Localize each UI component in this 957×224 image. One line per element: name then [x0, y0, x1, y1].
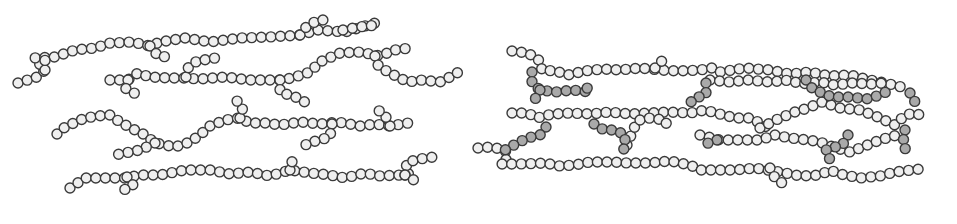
- monomer-bead: [105, 75, 115, 85]
- monomer-bead: [669, 157, 679, 167]
- branch-monomer-bead: [657, 56, 667, 66]
- crosslinked-polymer-panel: [473, 46, 924, 188]
- branch-monomer-bead: [181, 72, 191, 82]
- monomer-bead: [237, 33, 247, 43]
- monomer-bead: [285, 31, 295, 41]
- monomer-bead: [791, 77, 801, 87]
- monomer-bead: [317, 119, 327, 129]
- monomer-bead: [227, 73, 237, 83]
- monomer-bead: [602, 157, 612, 167]
- monomer-bead: [199, 36, 209, 46]
- branch-monomer-bead: [275, 75, 285, 85]
- crosslink-bead: [571, 85, 581, 95]
- monomer-bead: [271, 169, 281, 179]
- monomer-bead: [761, 133, 771, 143]
- crosslink-bead: [824, 91, 834, 101]
- monomer-bead: [592, 108, 602, 118]
- branch-monomer-bead: [159, 52, 169, 62]
- crosslink-bead: [880, 87, 890, 97]
- monomer-bead: [375, 171, 385, 181]
- monomer-bead: [124, 37, 134, 47]
- monomer-bead: [913, 164, 923, 174]
- monomer-bead: [256, 32, 266, 42]
- monomer-bead: [344, 48, 354, 58]
- monomer-bead: [687, 108, 697, 118]
- monomer-bead: [365, 169, 375, 179]
- monomer-bead: [620, 109, 630, 119]
- monomer-bead: [706, 107, 716, 117]
- monomer-bead: [337, 172, 347, 182]
- crosslink-bead: [825, 154, 835, 164]
- monomer-bead: [573, 68, 583, 78]
- branch-monomer-bead: [347, 23, 357, 33]
- monomer-bead: [725, 65, 735, 75]
- monomer-bead: [384, 171, 394, 181]
- monomer-bead: [835, 103, 845, 113]
- monomer-bead: [640, 64, 650, 74]
- linear-branched-polymer-panel: [13, 15, 462, 194]
- monomer-bead: [554, 161, 564, 171]
- crosslink-bead: [910, 96, 920, 106]
- monomer-bead: [266, 32, 276, 42]
- crosslink-bead: [899, 135, 909, 145]
- monomer-bead: [167, 168, 177, 178]
- monomer-bead: [13, 78, 23, 88]
- monomer-bead: [246, 75, 256, 85]
- monomer-bead: [346, 119, 356, 129]
- monomer-bead: [744, 164, 754, 174]
- polymer-diagram: [0, 0, 957, 224]
- monomer-bead: [779, 132, 789, 142]
- monomer-bead: [253, 169, 263, 179]
- monomer-bead: [545, 66, 555, 76]
- monomer-bead: [801, 171, 811, 181]
- branch-monomer-bead: [318, 15, 328, 25]
- monomer-bead: [86, 112, 96, 122]
- monomer-bead: [895, 82, 905, 92]
- monomer-bead: [289, 118, 299, 128]
- monomer-bead: [507, 159, 517, 169]
- monomer-bead: [161, 36, 171, 46]
- monomer-bead: [196, 165, 206, 175]
- monomer-bead: [507, 108, 517, 118]
- monomer-bead: [139, 170, 149, 180]
- crosslink-bead: [900, 125, 910, 135]
- monomer-bead: [697, 106, 707, 116]
- monomer-bead: [572, 108, 582, 118]
- monomer-bead: [148, 170, 158, 180]
- monomer-bead: [574, 159, 584, 169]
- crosslink-bead: [535, 130, 545, 140]
- monomer-bead: [234, 168, 244, 178]
- monomer-bead: [247, 33, 257, 43]
- crosslink-bead: [853, 93, 863, 103]
- monomer-bead: [68, 46, 78, 56]
- monomer-bead: [631, 158, 641, 168]
- monomer-bead: [95, 111, 105, 121]
- monomer-bead: [669, 66, 679, 76]
- monomer-bead: [132, 69, 142, 79]
- monomer-bead: [668, 107, 678, 117]
- branch-monomer-bead: [408, 175, 418, 185]
- monomer-bead: [473, 143, 483, 153]
- monomer-bead: [483, 142, 493, 152]
- monomer-bead: [905, 109, 915, 119]
- monomer-bead: [555, 67, 565, 77]
- monomer-bead: [564, 160, 574, 170]
- monomer-bead: [772, 76, 782, 86]
- monomer-bead: [808, 136, 818, 146]
- monomer-bead: [782, 168, 792, 178]
- monomer-bead: [215, 167, 225, 177]
- monomer-bead: [208, 73, 218, 83]
- monomer-bead: [866, 172, 876, 182]
- monomer-bead: [251, 118, 261, 128]
- monomer-bead: [205, 165, 215, 175]
- branch-monomer-bead: [191, 57, 201, 67]
- monomer-bead: [621, 64, 631, 74]
- monomer-bead: [564, 70, 574, 80]
- monomer-bead: [536, 158, 546, 168]
- monomer-bead: [612, 157, 622, 167]
- monomer-bead: [697, 65, 707, 75]
- monomer-bead: [180, 33, 190, 43]
- monomer-bead: [847, 78, 857, 88]
- monomer-bead: [678, 159, 688, 169]
- monomer-bead: [735, 165, 745, 175]
